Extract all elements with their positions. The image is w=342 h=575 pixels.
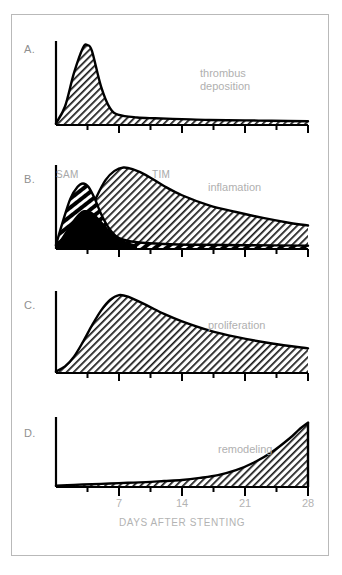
panel-c: C. proliferation [12, 277, 330, 395]
x-tick-label-28: 28 [302, 497, 314, 509]
panel-d-chart [12, 401, 330, 551]
panel-d-label: remodeling [218, 443, 272, 456]
panel-d: D. remodeling 7 14 21 28 DAYS AFTER STEN… [12, 401, 330, 551]
panel-a-letter: A. [24, 43, 35, 55]
x-tick-label-14: 14 [176, 497, 188, 509]
x-tick-label-21: 21 [239, 497, 251, 509]
figure-frame: A. thrombus deposition B. SAM TIM inflam… [11, 14, 329, 556]
panel-c-chart [12, 277, 330, 395]
panel-a-label: thrombus deposition [200, 67, 250, 93]
panel-a-chart [12, 27, 330, 147]
panel-d-letter: D. [24, 427, 36, 439]
panel-c-label: proliferation [208, 319, 265, 332]
panel-b: B. SAM TIM inflamation [12, 149, 330, 271]
panel-b-label: inflamation [208, 181, 261, 194]
panel-a: A. thrombus deposition [12, 27, 330, 147]
x-axis-title: DAYS AFTER STENTING [119, 517, 245, 528]
x-tick-label-7: 7 [116, 497, 122, 509]
panel-b-letter: B. [24, 173, 35, 185]
curve-label-sam: SAM [56, 169, 79, 180]
panel-b-chart [12, 149, 330, 271]
curve-label-tim: TIM [152, 169, 170, 180]
panel-c-letter: C. [24, 299, 36, 311]
